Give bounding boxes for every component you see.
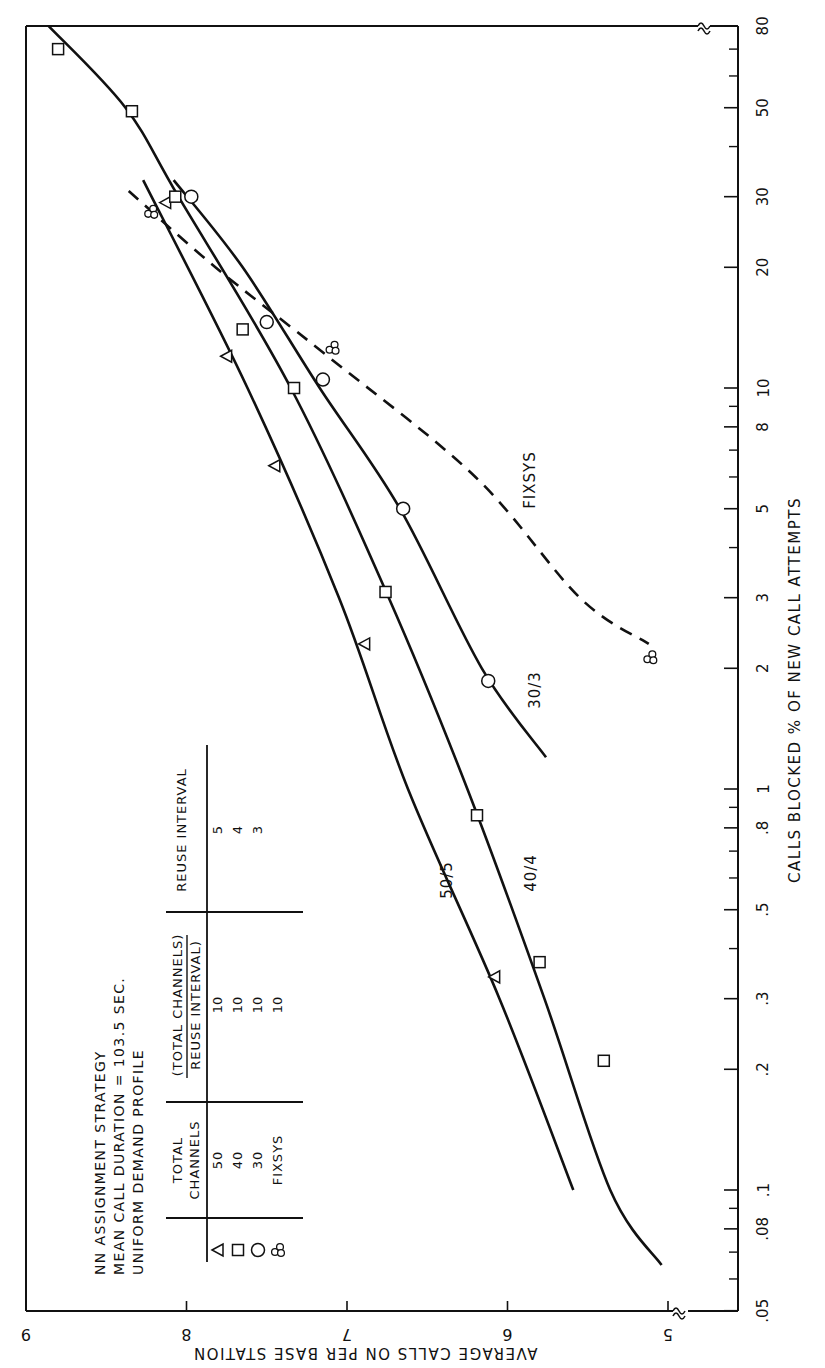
triangle-marker-icon bbox=[221, 350, 232, 362]
x-tick-label: 30 bbox=[755, 187, 773, 206]
marker-ring bbox=[650, 657, 657, 664]
legend-header-reuse: REUSE INTERVAL bbox=[174, 768, 189, 892]
y-tick-label: 8 bbox=[181, 1325, 191, 1344]
x-axis-label: CALLS BLOCKED % OF NEW CALL ATTEMPTS bbox=[786, 497, 804, 883]
x-tick-label: 2 bbox=[755, 664, 773, 674]
legend-ratio: 10 bbox=[270, 997, 285, 1014]
triangle-marker-icon bbox=[269, 460, 280, 472]
x-tick-label: 10 bbox=[755, 378, 773, 397]
y-tick-label: 5 bbox=[663, 1325, 673, 1344]
y-tick-label: 9 bbox=[21, 1325, 31, 1344]
title-line: UNIFORM DEMAND PROFILE bbox=[130, 1049, 146, 1275]
title-line: NN ASSIGNMENT STRATEGY bbox=[92, 1050, 108, 1275]
x-tick-label: 80 bbox=[755, 16, 773, 35]
y-tick-label: 7 bbox=[342, 1325, 352, 1344]
legend-reuse-interval: 4 bbox=[230, 826, 245, 834]
curve-label: FIXSYS bbox=[521, 451, 539, 509]
y-axis-label: AVERAGE CALLS ON PER BASE STATION bbox=[192, 1344, 537, 1362]
x-tick-label: .05 bbox=[755, 1299, 773, 1323]
circle-marker-icon bbox=[482, 674, 495, 687]
x-tick-label: .8 bbox=[755, 821, 773, 835]
x-tick-label: 5 bbox=[755, 504, 773, 514]
legend-header-total: TOTAL bbox=[170, 1137, 185, 1184]
marker-ring bbox=[151, 211, 158, 218]
title-line: MEAN CALL DURATION = 103.5 SEC. bbox=[111, 977, 127, 1275]
blocking-chart: .05.08.1.2.3.5.8123581020305080CALLS BLO… bbox=[0, 0, 825, 1368]
x-tick-label: .08 bbox=[755, 1217, 773, 1241]
triple-circle-marker-icon bbox=[272, 1244, 285, 1257]
legend-header-ratio-num: (TOTAL CHANNELS) bbox=[170, 934, 185, 1076]
legend-ratio: 10 bbox=[230, 997, 245, 1014]
legend-total-channels: 30 bbox=[250, 1151, 265, 1170]
legend-ratio: 10 bbox=[250, 997, 265, 1014]
triangle-marker-icon bbox=[359, 638, 370, 650]
triple-circle-marker-icon bbox=[644, 651, 657, 664]
circle-marker-icon bbox=[316, 373, 329, 386]
triangle-marker-icon bbox=[212, 1244, 223, 1256]
triangle-marker-icon bbox=[160, 197, 171, 209]
x-tick-label: 1 bbox=[755, 784, 773, 794]
square-marker-icon bbox=[53, 44, 64, 55]
triple-circle-marker-icon bbox=[326, 341, 339, 354]
curve-fixsys bbox=[129, 191, 649, 644]
square-marker-icon bbox=[534, 957, 545, 968]
legend-reuse-interval: 3 bbox=[250, 826, 265, 834]
x-axis-calls-blocked: .05.08.1.2.3.5.8123581020305080CALLS BLO… bbox=[724, 16, 804, 1322]
triangle-marker-icon bbox=[489, 971, 500, 983]
y-tick-label: 6 bbox=[502, 1325, 512, 1344]
curve-label: 30/3 bbox=[526, 671, 544, 709]
x-tick-label: .5 bbox=[755, 903, 773, 917]
curve-label: 40/4 bbox=[522, 854, 540, 892]
x-tick-label: .2 bbox=[755, 1062, 773, 1076]
marker-ring bbox=[278, 1250, 285, 1257]
circle-marker-icon bbox=[185, 190, 198, 203]
square-marker-icon bbox=[126, 106, 137, 117]
square-marker-icon bbox=[598, 1055, 609, 1066]
circle-marker-icon bbox=[260, 316, 273, 329]
circle-marker-icon bbox=[252, 1244, 265, 1257]
square-marker-icon bbox=[289, 383, 300, 394]
circle-marker-icon bbox=[397, 502, 410, 515]
x-tick-label: 50 bbox=[755, 98, 773, 117]
legend-table: TOTALCHANNELS(TOTAL CHANNELS)REUSE INTER… bbox=[166, 745, 303, 1262]
legend-reuse-interval: 5 bbox=[210, 826, 225, 834]
legend-ratio: 10 bbox=[210, 997, 225, 1014]
legend-header-ratio-den: REUSE INTERVAL) bbox=[188, 940, 203, 1070]
square-marker-icon bbox=[472, 810, 483, 821]
square-marker-icon bbox=[233, 1245, 244, 1256]
square-marker-icon bbox=[170, 191, 181, 202]
x-tick-label: .1 bbox=[755, 1183, 773, 1197]
square-marker-icon bbox=[237, 324, 248, 335]
x-tick-label: 8 bbox=[755, 422, 773, 432]
x-tick-label: 3 bbox=[755, 593, 773, 603]
marker-ring bbox=[332, 347, 339, 354]
square-marker-icon bbox=[380, 586, 391, 597]
chart-title: NN ASSIGNMENT STRATEGYMEAN CALL DURATION… bbox=[92, 977, 146, 1275]
curve-label: 50/5 bbox=[438, 861, 456, 899]
x-tick-label: 20 bbox=[755, 258, 773, 277]
legend-total-channels: FIXSYS bbox=[270, 1135, 285, 1186]
curve-30-3 bbox=[174, 180, 546, 757]
x-tick-label: .3 bbox=[755, 992, 773, 1006]
legend-total-channels: 40 bbox=[230, 1151, 245, 1170]
legend-header-channels: CHANNELS bbox=[187, 1121, 202, 1200]
legend-total-channels: 50 bbox=[210, 1151, 225, 1170]
